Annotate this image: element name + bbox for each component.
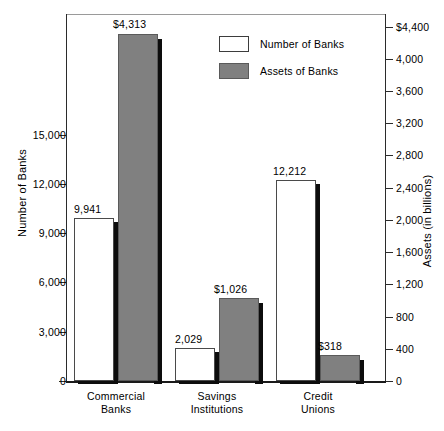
bar-group-credit-assets xyxy=(320,355,360,381)
bar-chart: 0 3,000 6,000 9,000 12,000 15,000 0 400 … xyxy=(0,0,444,431)
bar-label-credit-assets: $318 xyxy=(318,341,342,352)
right-tick-label-2000: 2,000 xyxy=(396,215,423,226)
chart-legend: Number of Banks Assets of Banks xyxy=(219,36,344,90)
bar-savings-assets[interactable] xyxy=(219,298,259,381)
left-tick-label-9000: 9,000 xyxy=(39,228,66,239)
category-line-2: Unions xyxy=(258,403,378,416)
bar-label-commercial-count: 9,941 xyxy=(74,204,101,215)
right-tick-label-800: 800 xyxy=(396,312,414,323)
legend-label-number-of-banks: Number of Banks xyxy=(260,38,344,50)
legend-swatch-white-icon xyxy=(219,36,249,52)
right-tick-label-2400: 2,400 xyxy=(396,183,423,194)
right-tick-label-3600: 3,600 xyxy=(396,86,423,97)
bar-group-commercial-assets xyxy=(118,34,158,382)
left-tick-label-12000: 12,000 xyxy=(33,179,66,190)
left-axis-line xyxy=(66,14,67,382)
right-tick-label-1200: 1,200 xyxy=(396,279,423,290)
bar-group-commercial-count xyxy=(74,218,114,381)
right-tick-400 xyxy=(386,349,393,350)
bar-commercial-banks-count[interactable] xyxy=(74,218,114,381)
bar-savings-count[interactable] xyxy=(175,348,215,381)
bar-label-savings-count: 2,029 xyxy=(175,334,202,345)
bar-group-credit-count xyxy=(276,180,316,381)
bar-credit-unions-count[interactable] xyxy=(276,180,316,381)
right-tick-0 xyxy=(386,381,393,382)
right-tick-label-1600: 1,600 xyxy=(396,247,423,258)
bar-credit-unions-assets[interactable] xyxy=(320,355,360,381)
bar-group-savings-count xyxy=(175,348,215,381)
right-tick-800 xyxy=(386,317,393,318)
right-tick-1200 xyxy=(386,284,393,285)
bar-label-commercial-assets: $4,313 xyxy=(113,19,146,30)
bar-label-credit-count: 12,212 xyxy=(273,166,306,177)
right-tick-label-400: 400 xyxy=(396,344,414,355)
legend-item-assets-of-banks[interactable]: Assets of Banks xyxy=(219,63,344,79)
left-tick-label-3000: 3,000 xyxy=(39,327,66,338)
legend-label-assets-of-banks: Assets of Banks xyxy=(260,65,338,77)
right-tick-2400 xyxy=(386,188,393,189)
category-label-credit-unions: Credit Unions xyxy=(258,390,378,415)
right-tick-3200 xyxy=(386,123,393,124)
right-tick-4000 xyxy=(386,59,393,60)
right-tick-1600 xyxy=(386,252,393,253)
left-tick-label-15000: 15,000 xyxy=(33,130,66,141)
right-tick-label-0: 0 xyxy=(396,376,402,387)
legend-swatch-gray-icon xyxy=(219,63,249,79)
bar-commercial-banks-assets[interactable] xyxy=(118,34,158,382)
right-tick-3600 xyxy=(386,91,393,92)
left-tick-label-6000: 6,000 xyxy=(39,277,66,288)
bar-group-savings-assets xyxy=(219,298,259,381)
right-tick-2000 xyxy=(386,220,393,221)
left-axis-title: Number of Banks xyxy=(16,133,28,253)
right-tick-label-2800: 2,800 xyxy=(396,150,423,161)
right-tick-label-4000: 4,000 xyxy=(396,54,423,65)
right-axis-title: Assets (in billions) xyxy=(421,156,433,286)
right-tick-4400 xyxy=(386,27,393,28)
right-tick-label-3200: 3,200 xyxy=(396,118,423,129)
left-tick-label-0: 0 xyxy=(60,376,66,387)
legend-item-number-of-banks[interactable]: Number of Banks xyxy=(219,36,344,52)
right-tick-2800 xyxy=(386,155,393,156)
bar-label-savings-assets: $1,026 xyxy=(214,284,247,295)
right-axis-line xyxy=(385,14,386,382)
category-line-1: Credit xyxy=(258,390,378,403)
right-tick-label-4400: $4,400 xyxy=(396,22,429,33)
